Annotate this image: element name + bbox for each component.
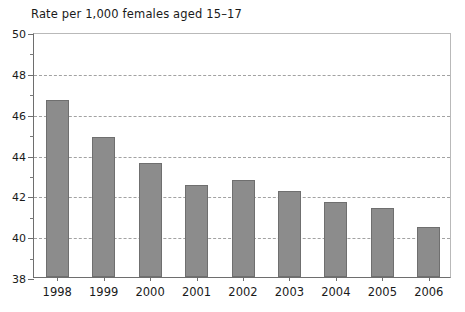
y-tick-minor-47 <box>30 95 34 96</box>
x-axis-label-2004: 2004 <box>321 285 350 299</box>
bar-2002 <box>232 180 255 277</box>
x-axis-label-2000: 2000 <box>135 285 164 299</box>
y-tick-38 <box>28 279 34 280</box>
bar-1998 <box>46 100 69 277</box>
x-axis-label-2001: 2001 <box>182 285 211 299</box>
x-tick-2006 <box>429 277 430 281</box>
bar-2003 <box>278 191 301 277</box>
y-tick-42 <box>28 197 34 198</box>
plot-area: 38404244464850 1998199920002001200220032… <box>33 33 451 278</box>
y-axis-label-46: 46 <box>12 109 26 122</box>
y-axis-label-44: 44 <box>12 150 26 163</box>
y-tick-minor-49 <box>30 54 34 55</box>
x-axis-label-1999: 1999 <box>89 285 118 299</box>
x-tick-2001 <box>197 277 198 281</box>
x-tick-2002 <box>243 277 244 281</box>
y-tick-minor-39 <box>30 259 34 260</box>
y-tick-50 <box>28 34 34 35</box>
y-tick-48 <box>28 75 34 76</box>
bar-2001 <box>185 185 208 277</box>
y-axis-label-38: 38 <box>12 273 26 286</box>
y-tick-minor-45 <box>30 136 34 137</box>
bar-2004 <box>324 202 347 277</box>
chart-screenshot: Rate per 1,000 females aged 15–17 384042… <box>0 0 465 312</box>
x-tick-1998 <box>57 277 58 281</box>
x-axis-label-2006: 2006 <box>414 285 443 299</box>
bar-1999 <box>92 137 115 277</box>
bar-2000 <box>139 163 162 277</box>
x-tick-2003 <box>289 277 290 281</box>
bar-2005 <box>371 208 394 277</box>
bar-2006 <box>417 227 440 277</box>
x-tick-1999 <box>104 277 105 281</box>
x-axis-label-2003: 2003 <box>275 285 304 299</box>
y-tick-44 <box>28 157 34 158</box>
x-tick-2005 <box>382 277 383 281</box>
x-axis-label-2002: 2002 <box>228 285 257 299</box>
y-axis-label-40: 40 <box>12 232 26 245</box>
x-tick-2004 <box>336 277 337 281</box>
x-axis-label-2005: 2005 <box>368 285 397 299</box>
y-tick-minor-43 <box>30 177 34 178</box>
chart-title: Rate per 1,000 females aged 15–17 <box>31 7 242 21</box>
x-tick-2000 <box>150 277 151 281</box>
y-axis-label-42: 42 <box>12 191 26 204</box>
y-axis-label-48: 48 <box>12 68 26 81</box>
y-axis-label-50: 50 <box>12 28 26 41</box>
y-tick-minor-41 <box>30 218 34 219</box>
y-tick-46 <box>28 116 34 117</box>
gridline-48 <box>34 75 450 76</box>
x-axis-label-1998: 1998 <box>43 285 72 299</box>
gridline-46 <box>34 116 450 117</box>
y-tick-40 <box>28 238 34 239</box>
